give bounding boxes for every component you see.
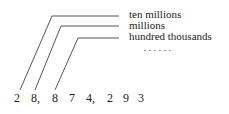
digit: 8,	[31, 91, 40, 106]
digit: 8	[52, 91, 58, 106]
ellipsis-dots: • • • • • •	[144, 48, 172, 53]
digit: 7	[69, 91, 75, 106]
pointer-line-hundred-thousands	[55, 38, 119, 90]
digit: 9	[123, 91, 129, 106]
pointer-line-ten-millions	[20, 16, 119, 90]
digit: 4,	[86, 91, 95, 106]
label-hundred-thousands: hundred thousands	[129, 31, 212, 42]
pointer-line-millions	[35, 26, 119, 90]
digit: 3	[138, 91, 144, 106]
digit: 2	[107, 91, 113, 106]
digit: 2	[14, 91, 20, 106]
